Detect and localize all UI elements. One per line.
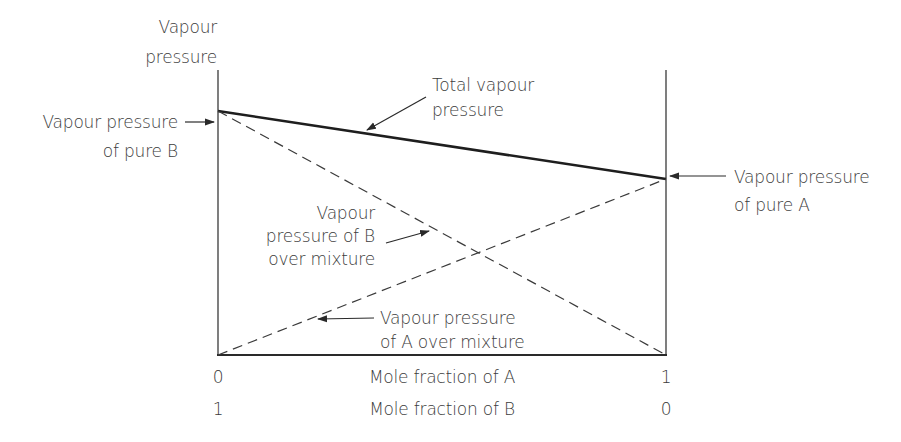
x-axis-title-a: Mole fraction of A — [342, 365, 542, 390]
b-over-mixture-label-line2: pressure of B — [266, 224, 375, 249]
x-tick-a-left: 0 — [208, 365, 228, 390]
pure-a-label-line1: Vapour pressure — [734, 165, 870, 190]
total-label-line1: Total vapour — [432, 73, 534, 98]
pure-a-label-line2: of pure A — [734, 193, 810, 218]
b-over-mixture-arrow — [386, 231, 429, 243]
b-over-mixture-label-line3: over mixture — [268, 247, 375, 272]
a-over-mixture-label-line1: Vapour pressure — [380, 306, 516, 331]
a-over-mixture-arrow — [318, 318, 374, 319]
b-over-mixture-label-line1: Vapour — [317, 201, 375, 226]
y-axis-label-line1: Vapour — [159, 15, 217, 40]
total-arrow — [367, 97, 426, 130]
a-over-mixture-label-line2: of A over mixture — [380, 330, 525, 355]
x-tick-b-left: 1 — [208, 397, 228, 422]
pure-b-label-line1: Vapour pressure — [42, 110, 178, 135]
y-axis-label-line2: pressure — [145, 45, 217, 70]
x-axis-title-b: Mole fraction of B — [342, 397, 542, 422]
x-tick-a-right: 1 — [656, 365, 676, 390]
total-label-line2: pressure — [432, 98, 504, 123]
pure-b-label-line2: of pure B — [103, 139, 178, 164]
x-tick-b-right: 0 — [656, 397, 676, 422]
